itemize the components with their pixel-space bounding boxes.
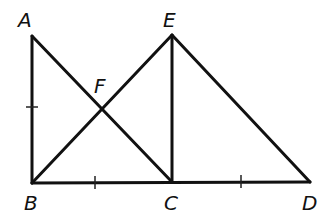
point-label-F: F	[94, 74, 106, 98]
point-label-C: C	[164, 191, 178, 214]
segment-ED	[172, 35, 310, 182]
geometry-diagram: A B C D E F	[0, 0, 330, 214]
point-label-E: E	[163, 8, 176, 32]
point-label-D: D	[302, 191, 317, 214]
point-label-B: B	[24, 191, 38, 214]
point-label-A: A	[16, 8, 32, 32]
segment-BD	[32, 182, 310, 183]
